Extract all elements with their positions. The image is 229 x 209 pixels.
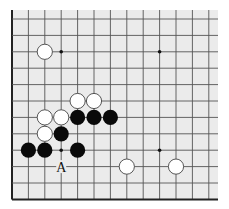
white-stone-icon bbox=[37, 110, 52, 125]
black-stone-icon bbox=[103, 110, 118, 125]
white-stone-icon bbox=[70, 93, 85, 108]
star-point-icon bbox=[158, 50, 162, 54]
black-stone-icon bbox=[70, 110, 85, 125]
black-stone-icon bbox=[37, 143, 52, 158]
star-point-icon bbox=[59, 148, 63, 152]
point-labels: A bbox=[56, 160, 67, 175]
white-stone-icon bbox=[119, 159, 134, 174]
black-stone-icon bbox=[70, 143, 85, 158]
white-stone-icon bbox=[37, 126, 52, 141]
go-board-diagram: A bbox=[0, 0, 229, 209]
white-stone-icon bbox=[37, 44, 52, 59]
point-label-a: A bbox=[56, 160, 67, 175]
board-background bbox=[12, 10, 218, 199]
white-stone-icon bbox=[168, 159, 183, 174]
black-stone-icon bbox=[54, 126, 69, 141]
star-point-icon bbox=[59, 50, 63, 54]
black-stone-icon bbox=[21, 143, 36, 158]
black-stone-icon bbox=[86, 110, 101, 125]
white-stone-icon bbox=[86, 93, 101, 108]
star-point-icon bbox=[158, 148, 162, 152]
white-stone-icon bbox=[54, 110, 69, 125]
